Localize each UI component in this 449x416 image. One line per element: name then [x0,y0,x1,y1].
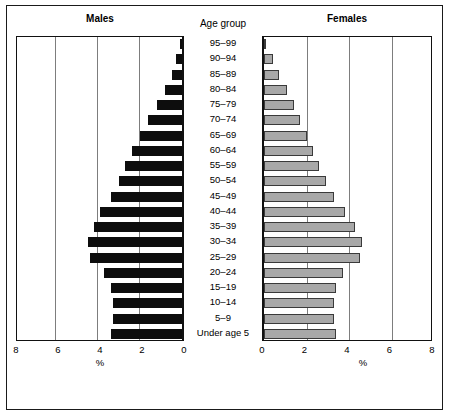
bar-row [17,190,182,205]
males-plot-area [16,36,184,341]
age-group-label: 45–49 [186,189,260,204]
bar-row [17,129,182,144]
bar-row [264,37,431,52]
axis-tick-label: 4 [88,343,112,356]
age-group-column-title: Age group [186,18,260,30]
bar-row [17,235,182,250]
bar-row [264,251,431,266]
females-x-axis: 02468 [262,343,432,357]
axis-tick-label: 8 [420,343,444,356]
bar [264,70,279,80]
bar [176,54,182,64]
bar-row [17,174,182,189]
bar [264,39,266,49]
bar [264,131,307,141]
age-group-label: 95–99 [186,36,260,51]
bar-row [264,205,431,220]
age-group-label: Under age 5 [186,326,260,341]
age-group-label: 50–54 [186,173,260,188]
bar-row [17,52,182,67]
bar [264,222,355,232]
age-group-label: 35–39 [186,219,260,234]
females-panel-title: Females [262,13,432,25]
axis-tick-label: 8 [4,343,28,356]
bar-row [264,190,431,205]
bar [113,298,182,308]
bar-row [17,37,182,52]
bar-row [17,159,182,174]
females-bar-series [264,37,431,340]
bar [264,146,313,156]
bar [264,283,336,293]
axis-tick-label: 0 [172,343,196,356]
bar-row [17,68,182,83]
axis-tick-label: 6 [378,343,402,356]
bar [100,207,182,217]
females-axis-label: % [348,357,378,369]
age-group-label: 70–74 [186,112,260,127]
bar-row [264,68,431,83]
bar-row [17,312,182,327]
bar-row [17,205,182,220]
bar [264,314,334,324]
bar [264,161,319,171]
bar [264,329,336,339]
bar-row [17,144,182,159]
bar-row [264,113,431,128]
bar [264,237,362,247]
bar [111,329,182,339]
axis-tick-label: 2 [130,343,154,356]
males-bar-series [17,37,182,340]
bar-row [17,83,182,98]
axis-tick-label: 6 [46,343,70,356]
bar-row [264,144,431,159]
axis-tick-label: 2 [293,343,317,356]
bar [157,100,182,110]
bar-row [264,235,431,250]
bar-row [17,251,182,266]
age-group-label: 60–64 [186,143,260,158]
males-panel-title: Males [16,13,184,25]
population-pyramid-figure: Males Age group Females 95–9990–9485–898… [0,0,449,416]
bar [264,85,287,95]
age-group-label: 90–94 [186,51,260,66]
bar [104,268,182,278]
age-group-label: 65–69 [186,128,260,143]
males-axis-label: % [85,357,115,369]
age-group-label: 75–79 [186,97,260,112]
axis-tick-label: 4 [335,343,359,356]
bar-row [264,174,431,189]
bar [165,85,182,95]
bar [148,115,182,125]
bar [264,176,326,186]
bar [88,237,183,247]
age-group-label: 80–84 [186,82,260,97]
bar-row [264,296,431,311]
bar [264,54,273,64]
bar [111,283,182,293]
bar [172,70,183,80]
bar [180,39,182,49]
age-group-label: 85–89 [186,67,260,82]
bar-row [264,327,431,341]
bar-row [264,312,431,327]
age-group-label: 20–24 [186,265,260,280]
bar [119,176,182,186]
bar [125,161,182,171]
bar [264,115,300,125]
age-group-label: 15–19 [186,280,260,295]
males-x-axis: 86420 [16,343,184,357]
bar-row [264,159,431,174]
bar [264,192,334,202]
bar [264,268,343,278]
bar [264,207,345,217]
age-group-label: 25–29 [186,250,260,265]
bar [111,192,182,202]
bar [94,222,182,232]
bar [264,298,334,308]
bar [264,253,360,263]
bar-row [264,98,431,113]
axis-tick-label: 0 [250,343,274,356]
age-group-label: 55–59 [186,158,260,173]
bar-row [17,327,182,341]
